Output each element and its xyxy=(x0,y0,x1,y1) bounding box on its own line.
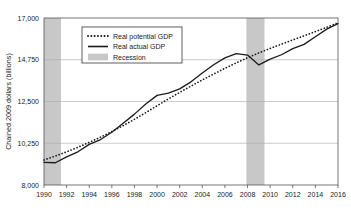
x-axis-tick-label: 2000 xyxy=(149,191,165,198)
x-axis-tick-label: 2014 xyxy=(308,191,324,198)
y-axis-tick-label: 12,500 xyxy=(18,98,40,105)
y-axis-tick-label: 8,000 xyxy=(21,182,39,189)
x-axis-tick-label: 1994 xyxy=(81,191,97,198)
legend-label: Recession xyxy=(113,54,146,61)
x-axis-tick-label: 1996 xyxy=(104,191,120,198)
x-axis-tick-label: 1992 xyxy=(59,191,75,198)
gdp-chart: 8,00010,25012,50014,75017,000 1990199219… xyxy=(0,0,351,216)
x-axis-tick-label: 1998 xyxy=(127,191,143,198)
x-axis-tick-label: 2016 xyxy=(330,191,346,198)
x-axis-tick-label: 2012 xyxy=(285,191,301,198)
y-axis-tick-label: 14,750 xyxy=(18,56,40,63)
chart-canvas: 8,00010,25012,50014,75017,000 1990199219… xyxy=(0,0,351,216)
x-axis-tick-label: 2008 xyxy=(240,191,256,198)
legend-marker-gray-swatch xyxy=(88,54,108,61)
x-axis-tick-label: 2004 xyxy=(195,191,211,198)
y-axis-tick-label: 17,000 xyxy=(18,15,40,22)
legend-label: Real potential GDP xyxy=(113,33,173,41)
chart-legend: Real potential GDPReal actual GDPRecessi… xyxy=(82,27,182,63)
y-axis-tick-label: 10,250 xyxy=(18,140,40,147)
x-axis-tick-label: 2010 xyxy=(262,191,278,198)
x-axis-tick-label: 1990 xyxy=(36,191,52,198)
x-axis-tick-label: 2006 xyxy=(217,191,233,198)
y-axis-title: Chained 2009 dollars (billions) xyxy=(4,53,13,150)
x-axis-tick-label: 2002 xyxy=(172,191,188,198)
legend-label: Real actual GDP xyxy=(113,43,165,50)
